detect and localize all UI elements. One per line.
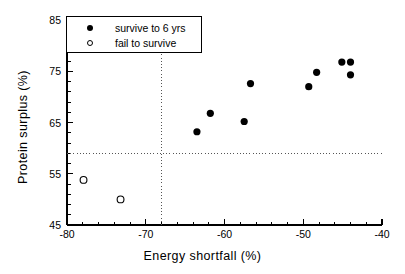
x-tick-label: -60 (217, 228, 232, 240)
data-points (80, 58, 354, 202)
x-tick-label: -50 (296, 228, 311, 240)
legend-entry-fail: fail to survive (67, 35, 201, 50)
legend-entry-survive: survive to 6 yrs (67, 20, 201, 35)
data-point-filled-circle (347, 71, 354, 78)
data-point-filled-circle (193, 128, 200, 135)
data-point-filled-circle (305, 83, 312, 90)
x-tick-label: -80 (59, 228, 74, 240)
y-tick-label: 45 (35, 219, 61, 231)
legend-marker-open-circle-icon (75, 40, 105, 46)
data-point-filled-circle (347, 58, 354, 65)
data-point-filled-circle (247, 80, 254, 87)
y-tick-label: 65 (35, 117, 61, 129)
scatter-chart-figure: 4555657585 -80-70-60-50-40 Protein surpl… (0, 0, 405, 274)
y-axis-title: Protein surplus (%) (16, 42, 30, 212)
legend-label-survive: survive to 6 yrs (115, 22, 186, 34)
y-tick-label: 55 (35, 168, 61, 180)
data-point-open-circle (117, 196, 124, 203)
data-point-filled-circle (338, 58, 345, 65)
y-tick-label: 85 (35, 14, 61, 26)
x-tick-label: -40 (374, 228, 389, 240)
y-tick-label: 75 (35, 65, 61, 77)
x-axis-title: Energy shortfall (%) (0, 249, 405, 263)
data-point-filled-circle (241, 118, 248, 125)
data-point-filled-circle (207, 110, 214, 117)
legend-label-fail: fail to survive (115, 37, 176, 49)
legend-marker-filled-circle-icon (75, 25, 105, 31)
chart-legend: survive to 6 yrs fail to survive (66, 16, 202, 53)
data-point-open-circle (80, 177, 87, 184)
data-point-filled-circle (313, 69, 320, 76)
x-tick-label: -70 (138, 228, 153, 240)
